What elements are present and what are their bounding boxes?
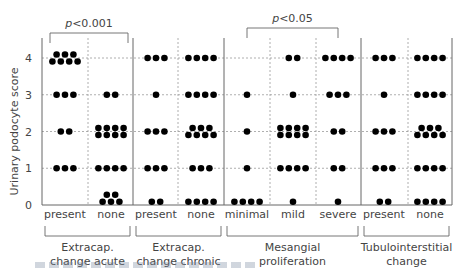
data-point xyxy=(53,51,60,58)
data-point xyxy=(414,132,421,139)
data-point xyxy=(210,55,217,62)
data-point xyxy=(95,125,102,132)
data-point xyxy=(194,132,201,139)
data-point xyxy=(431,55,438,62)
data-point xyxy=(381,91,388,98)
data-point xyxy=(210,132,217,139)
data-point xyxy=(112,91,119,98)
data-point xyxy=(331,165,338,172)
data-point xyxy=(431,91,438,98)
data-point xyxy=(302,165,309,172)
group-label: Mesangial xyxy=(265,241,321,254)
data-point xyxy=(381,165,388,172)
data-point xyxy=(120,165,127,172)
x-category-label: none xyxy=(97,208,125,221)
dot-plot-chart: 01234Urinary podocyte scorepresentnonepr… xyxy=(0,0,463,269)
data-point xyxy=(198,165,205,172)
data-point xyxy=(439,165,446,172)
x-category-label: none xyxy=(187,208,215,221)
data-point xyxy=(153,165,160,172)
data-point xyxy=(322,55,329,62)
data-point xyxy=(389,165,396,172)
x-category-label: none xyxy=(416,208,444,221)
data-point xyxy=(339,128,346,135)
data-point xyxy=(286,165,293,172)
group-label: change xyxy=(386,255,427,268)
data-point xyxy=(372,55,379,62)
data-point xyxy=(286,132,293,139)
data-point xyxy=(435,125,442,132)
data-point xyxy=(294,125,301,132)
significance-bracket xyxy=(247,28,338,38)
data-point xyxy=(70,91,77,98)
data-point xyxy=(202,198,209,205)
data-point xyxy=(95,132,102,139)
data-point xyxy=(58,128,65,135)
data-point xyxy=(202,132,209,139)
data-point xyxy=(277,132,284,139)
figure-caption-cutoff xyxy=(35,262,255,268)
y-tick-label: 1 xyxy=(25,162,32,175)
data-point xyxy=(423,91,430,98)
data-point xyxy=(53,165,60,172)
data-point xyxy=(347,55,354,62)
data-point xyxy=(112,165,119,172)
data-point xyxy=(144,165,151,172)
data-point xyxy=(104,125,111,132)
data-point xyxy=(112,191,119,198)
x-category-label: present xyxy=(44,208,87,221)
data-point xyxy=(439,91,446,98)
data-point xyxy=(331,128,338,135)
y-tick-label: 2 xyxy=(25,126,32,139)
data-point xyxy=(198,125,205,132)
data-point xyxy=(74,58,81,65)
data-point xyxy=(339,55,346,62)
data-point xyxy=(418,125,425,132)
p-value-label: p<0.05 xyxy=(271,12,313,25)
data-point xyxy=(294,55,301,62)
data-point xyxy=(104,165,111,172)
data-point xyxy=(414,198,421,205)
data-point xyxy=(185,91,192,98)
data-point xyxy=(431,165,438,172)
data-point xyxy=(58,58,65,65)
data-point xyxy=(189,165,196,172)
data-point xyxy=(335,198,342,205)
data-point xyxy=(104,91,111,98)
data-point xyxy=(302,125,309,132)
data-point xyxy=(185,198,192,205)
data-point xyxy=(112,132,119,139)
data-point xyxy=(277,165,284,172)
data-point xyxy=(302,132,309,139)
data-point xyxy=(385,198,392,205)
data-point xyxy=(431,198,438,205)
data-point xyxy=(153,91,160,98)
group-label: proliferation xyxy=(259,255,326,268)
data-point xyxy=(423,198,430,205)
data-point xyxy=(70,165,77,172)
significance-bracket xyxy=(50,33,128,43)
data-point xyxy=(53,91,60,98)
data-point xyxy=(62,51,69,58)
data-point xyxy=(157,198,164,205)
data-point xyxy=(372,165,379,172)
data-point xyxy=(66,58,73,65)
data-point xyxy=(244,128,251,135)
p-value-label: p<0.001 xyxy=(64,17,113,30)
data-point xyxy=(244,91,251,98)
data-point xyxy=(372,128,379,135)
data-point xyxy=(439,132,446,139)
group-label: Extracap. xyxy=(152,241,204,254)
data-point xyxy=(70,51,77,58)
data-point xyxy=(377,198,384,205)
data-point xyxy=(439,55,446,62)
data-point xyxy=(326,91,333,98)
y-tick-label: 4 xyxy=(25,52,32,65)
data-point xyxy=(286,55,293,62)
data-point xyxy=(161,128,168,135)
data-point xyxy=(343,91,350,98)
data-point xyxy=(149,198,156,205)
data-point xyxy=(389,128,396,135)
data-point xyxy=(202,55,209,62)
y-tick-label: 3 xyxy=(25,89,32,102)
